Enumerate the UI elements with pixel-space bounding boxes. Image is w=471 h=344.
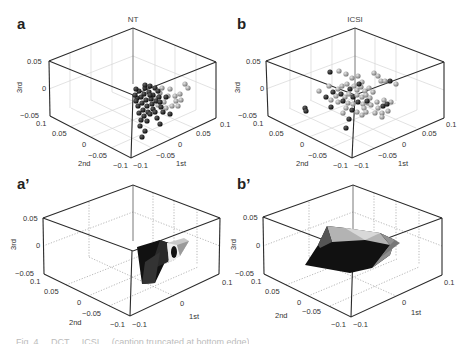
- a2-x-label: 1st: [189, 312, 199, 321]
- panel-b-axes: [266, 28, 444, 158]
- a2-x-tick-01: 0.1: [222, 278, 232, 287]
- panel-a2-frame: [43, 185, 220, 316]
- a-x-label: 1st: [176, 159, 186, 168]
- panel-title-a: NT: [103, 15, 163, 24]
- a2-y-tick-m01: −0.1: [110, 320, 125, 329]
- a-y-label: 2nd: [78, 159, 91, 168]
- b2-y-tick-005: 0.05: [265, 287, 280, 296]
- a-y-tick-m01: −0.1: [113, 161, 128, 170]
- panel-label-a2: a’: [17, 175, 30, 192]
- a2-y-label: 2nd: [69, 318, 82, 327]
- panel-a2-axes: [43, 185, 220, 316]
- b2-x-label: 1st: [411, 308, 421, 317]
- b2-y-tick-01: 0.1: [251, 277, 261, 286]
- a-x-tick-m005: −0.05: [156, 151, 175, 160]
- b-x-tick-m005: −0.05: [378, 151, 397, 160]
- panel-b2-axes: [263, 185, 442, 317]
- b2-z-tick-mid: 0: [256, 241, 260, 250]
- a-x-tick-005: 0.05: [196, 129, 211, 138]
- b2-y-tick-m005: −0.05: [302, 307, 321, 316]
- a2-y-tick-005: 0.05: [44, 287, 59, 296]
- a2-x-tick-m01: −0.1: [132, 320, 147, 329]
- b2-x-tick-0: 0: [402, 298, 406, 307]
- panel-a-axes: [49, 28, 216, 158]
- b-y-label: 2nd: [296, 159, 309, 168]
- b-x-tick-0: 0: [402, 140, 406, 149]
- b-x-tick-005: 0.05: [422, 129, 437, 138]
- panel-b2-hulls: [305, 226, 400, 273]
- a2-x-tick-0: 0: [180, 299, 184, 308]
- b2-x-tick-01: 0.1: [444, 278, 454, 287]
- b-z-label: 3rd: [233, 82, 242, 93]
- b2-z-label: 3rd: [229, 239, 238, 250]
- b-y-tick-005: 0.05: [269, 129, 284, 138]
- panel-title-b: ICSI: [325, 15, 385, 24]
- panel-label-b: b: [237, 15, 246, 32]
- b2-y-label: 2nd: [275, 311, 288, 320]
- panel-label-b2: b’: [237, 175, 250, 192]
- b2-x-tick-m01: −0.1: [353, 320, 368, 329]
- b2-z-tick-top: 0.05: [243, 213, 258, 222]
- a-x-tick-01: 0.1: [220, 120, 230, 129]
- b2-y-tick-0: 0: [297, 298, 301, 307]
- b-z-tick-top: 0.05: [246, 57, 261, 66]
- a-y-tick-0: 0: [82, 140, 86, 149]
- a2-z-tick-top: 0.05: [23, 214, 38, 223]
- b-x-label: 1st: [398, 159, 408, 168]
- a-y-tick-005: 0.05: [52, 129, 67, 138]
- b-y-tick-m01: −0.1: [333, 161, 348, 170]
- panel-a2-grid: [43, 193, 220, 306]
- a2-y-tick-m005: −0.05: [82, 309, 101, 318]
- a2-y-tick-01: 0.1: [30, 277, 40, 286]
- panel-a-grid: [49, 36, 216, 148]
- a2-y-tick-0: 0: [77, 298, 81, 307]
- a-z-tick-mid: 0: [42, 84, 46, 93]
- a2-z-label: 3rd: [9, 239, 18, 250]
- b-y-tick-m005: −0.05: [308, 151, 327, 160]
- b-z-tick-mid: 0: [260, 84, 264, 93]
- a-z-tick-top: 0.05: [27, 57, 42, 66]
- panel-a-points: [132, 81, 190, 139]
- b2-y-tick-m01: −0.1: [331, 320, 346, 329]
- a-x-tick-0: 0: [178, 140, 182, 149]
- b-x-tick-m01: −0.1: [354, 161, 369, 170]
- a-y-tick-01: 0.1: [36, 119, 46, 128]
- a-z-label: 3rd: [15, 82, 24, 93]
- a2-z-tick-mid: 0: [36, 241, 40, 250]
- b-y-tick-01: 0.1: [253, 119, 263, 128]
- a-y-tick-m005: −0.05: [88, 151, 107, 160]
- a-x-tick-m01: −0.1: [133, 161, 148, 170]
- b-y-tick-0: 0: [300, 140, 304, 149]
- b-x-tick-01: 0.1: [446, 120, 456, 129]
- figure-caption-truncated: Fig. 4 ... DCT ... ICSI ... (caption tru…: [16, 337, 249, 344]
- panel-label-a: a: [17, 15, 25, 32]
- figure-canvas: [0, 0, 471, 344]
- panel-a2-hulls: [137, 238, 189, 284]
